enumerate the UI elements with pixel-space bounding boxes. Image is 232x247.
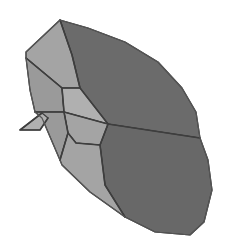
lower-dark-face — [100, 124, 212, 235]
polyhedron-figure — [0, 0, 232, 247]
